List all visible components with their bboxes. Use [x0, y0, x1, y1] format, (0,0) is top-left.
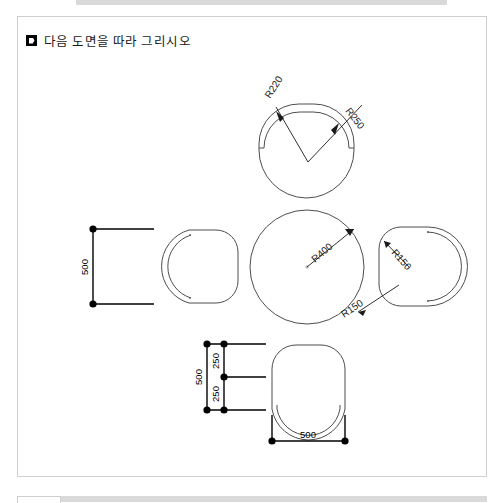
next-block-bar: [61, 496, 487, 502]
dim-bottom-horizontal-500-label: 500: [300, 429, 316, 440]
radius-top-right-label: R250: [343, 105, 367, 131]
next-block-tab: [17, 496, 61, 503]
radius-top-left-label: R220: [262, 74, 284, 100]
radius-right-inner-label: R150: [390, 247, 414, 272]
dim-left-vertical-500-label: 500: [79, 259, 90, 275]
next-block-strip: [17, 496, 487, 503]
dim-bottom-left-outer-500-label: 500: [193, 369, 204, 385]
dim-bottom-left-upper-250-label: 250: [210, 353, 221, 369]
dim-bottom-left-lower-250-label: 250: [210, 386, 221, 402]
radius-right-lower-label: R150: [339, 297, 365, 320]
radius-center-label: R400: [309, 240, 335, 264]
technical-drawing: 500 500 250 250: [18, 17, 488, 478]
previous-block-strip: [76, 0, 447, 5]
question-panel: 다음 도면을 따라 그리시오: [17, 16, 487, 477]
